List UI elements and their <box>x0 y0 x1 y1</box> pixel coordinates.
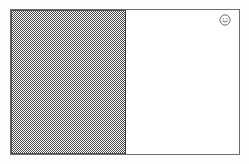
shaded-panel-border <box>11 10 125 154</box>
screenshot-canvas <box>0 0 249 164</box>
content-surface <box>11 10 239 154</box>
document-frame <box>10 9 240 155</box>
shaded-panel[interactable] <box>11 10 126 154</box>
smiley-face-icon[interactable] <box>219 14 231 26</box>
